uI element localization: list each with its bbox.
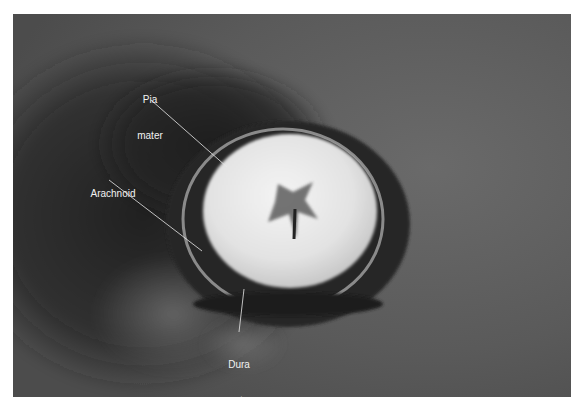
label-dura-line2: mater bbox=[219, 395, 259, 397]
clipped-caption bbox=[30, 402, 560, 407]
specimen-photo: Pia mater Arachnoid Dura mater bbox=[13, 14, 571, 397]
label-pia-mater: Pia mater bbox=[130, 70, 170, 166]
label-arachnoid: Arachnoid bbox=[83, 164, 143, 224]
label-arachnoid-line1: Arachnoid bbox=[83, 188, 143, 200]
label-dura-line1: Dura bbox=[219, 359, 259, 371]
label-pia-line2: mater bbox=[130, 130, 170, 142]
label-pia-line1: Pia bbox=[130, 94, 170, 106]
label-dura-mater: Dura mater bbox=[219, 335, 259, 397]
